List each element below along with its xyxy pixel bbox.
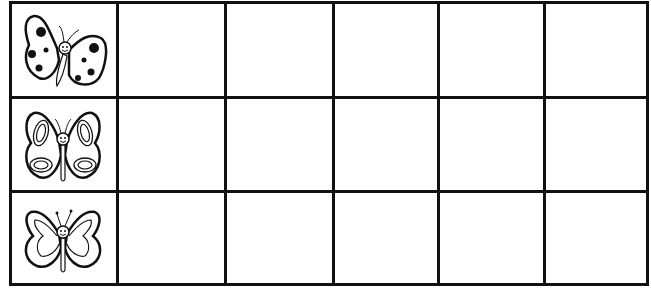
tally-cell[interactable] [334,3,439,98]
spotted-butterfly-icon [19,10,109,90]
tally-cell[interactable] [334,192,439,285]
tally-cell[interactable] [545,98,648,192]
tally-cell[interactable] [226,98,334,192]
tally-cell[interactable] [439,98,545,192]
tally-cell[interactable] [545,3,648,98]
tally-cell[interactable] [226,192,334,285]
grid-row-plain [11,192,648,285]
tally-cell[interactable] [118,98,226,192]
tally-cell[interactable] [439,3,545,98]
icon-cell [11,192,118,285]
butterfly-grid [9,1,649,286]
plain-butterfly-icon [19,198,109,278]
ringed-butterfly-icon [19,105,109,185]
tally-cell[interactable] [226,3,334,98]
icon-cell [11,3,118,98]
grid-row-ringed [11,98,648,192]
tally-cell[interactable] [334,98,439,192]
tally-cell[interactable] [118,192,226,285]
tally-cell[interactable] [545,192,648,285]
tally-cell[interactable] [439,192,545,285]
grid-row-spotted [11,3,648,98]
icon-cell [11,98,118,192]
tally-cell[interactable] [118,3,226,98]
